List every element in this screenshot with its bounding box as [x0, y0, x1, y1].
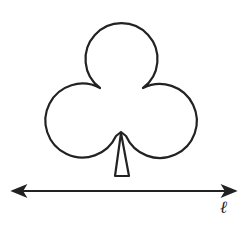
diagram-canvas: [0, 0, 249, 227]
line-l: [13, 186, 235, 196]
club-shape: [45, 23, 196, 176]
line-label: ℓ: [220, 197, 227, 218]
